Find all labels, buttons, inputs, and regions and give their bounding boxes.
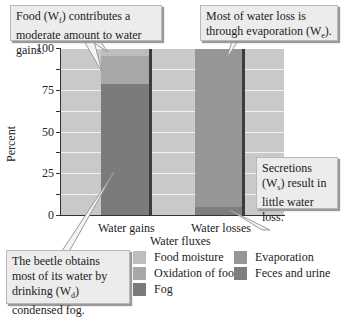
legend-label: Food moisture — [154, 250, 224, 265]
callout-text: ). — [325, 24, 332, 38]
callout-text: Food (W — [16, 9, 59, 23]
callout-evaporation: Most of water loss is through evaporatio… — [200, 5, 338, 41]
legend-label: Feces and urine — [255, 266, 330, 281]
legend-label: Evaporation — [255, 250, 314, 265]
callout-text: The beetle obtains most of its water by … — [12, 254, 107, 298]
legend-label: Fog — [154, 282, 173, 297]
legend-swatch — [133, 267, 146, 280]
legend-swatch — [133, 283, 146, 296]
legend-item-oxidation-of-food: Oxidation of food — [133, 266, 240, 281]
callout-secretions: Secretions (Ws) result in little water l… — [256, 157, 338, 209]
callout-text: Most of water loss is through evaporatio… — [206, 9, 321, 38]
legend-swatch — [234, 267, 247, 280]
callout-food: Food (Wf) contributes a moderate amount … — [10, 5, 162, 41]
legend-item-evaporation: Evaporation — [234, 250, 314, 265]
legend-swatch — [234, 251, 247, 264]
callout-fog: The beetle obtains most of its water by … — [6, 250, 130, 304]
legend-item-food-moisture: Food moisture — [133, 250, 224, 265]
legend-item-feces-and-urine: Feces and urine — [234, 266, 330, 281]
legend-item-fog: Fog — [133, 282, 173, 297]
legend-swatch — [133, 251, 146, 264]
legend-label: Oxidation of food — [154, 266, 240, 281]
